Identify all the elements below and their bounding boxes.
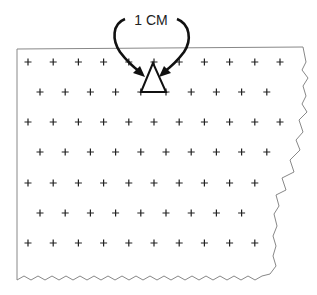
- plus-mark: [151, 119, 158, 126]
- plus-mark: [213, 89, 220, 96]
- plus-mark: [188, 210, 195, 217]
- plus-mark: [176, 180, 183, 187]
- plus-mark: [151, 240, 158, 247]
- plus-mark: [87, 149, 94, 156]
- plus-mark: [188, 89, 195, 96]
- plus-mark: [188, 149, 195, 156]
- plus-mark: [226, 119, 233, 126]
- plus-mark: [238, 149, 245, 156]
- plus-mark: [112, 89, 119, 96]
- plus-mark: [137, 149, 144, 156]
- plus-mark: [62, 210, 69, 217]
- plus-mark: [238, 89, 245, 96]
- plus-mark: [176, 119, 183, 126]
- plus-mark: [137, 210, 144, 217]
- spacing-diagram: 1 CM: [0, 0, 317, 295]
- plus-mark: [50, 119, 57, 126]
- plus-mark: [50, 59, 57, 66]
- plus-mark: [37, 149, 44, 156]
- plus-mark: [25, 59, 32, 66]
- plus-mark: [277, 119, 284, 126]
- plus-mark: [87, 210, 94, 217]
- plus-mark: [201, 119, 208, 126]
- plus-mark: [125, 180, 132, 187]
- plus-mark: [100, 240, 107, 247]
- plus-mark: [37, 89, 44, 96]
- plus-mark: [37, 210, 44, 217]
- plus-mark: [25, 180, 32, 187]
- plus-mark: [75, 180, 82, 187]
- plus-mark: [100, 180, 107, 187]
- plus-mark: [226, 59, 233, 66]
- sheet-torn-right-edge: [270, 47, 308, 274]
- plus-mark: [62, 149, 69, 156]
- plus-mark: [75, 240, 82, 247]
- plus-mark: [238, 210, 245, 217]
- plus-mark: [201, 240, 208, 247]
- plus-mark: [50, 180, 57, 187]
- plus-mark: [163, 210, 170, 217]
- plus-mark: [151, 180, 158, 187]
- plus-mark: [263, 89, 270, 96]
- plus-mark: [100, 59, 107, 66]
- plus-mark: [213, 149, 220, 156]
- scale-label: 1 CM: [134, 12, 167, 28]
- sheet-torn-bottom-edge: [17, 274, 270, 280]
- plus-mark: [112, 210, 119, 217]
- plus-mark: [163, 149, 170, 156]
- plus-mark: [75, 59, 82, 66]
- plus-mark: [251, 180, 258, 187]
- plus-mark: [50, 240, 57, 247]
- spacing-triangle: [141, 63, 166, 92]
- plus-mark: [25, 240, 32, 247]
- plus-mark: [87, 89, 94, 96]
- plus-mark: [75, 119, 82, 126]
- sheet-top-left-edge: [17, 47, 303, 280]
- plus-mark: [125, 119, 132, 126]
- plus-mark: [263, 149, 270, 156]
- plus-mark: [201, 59, 208, 66]
- plus-mark: [112, 149, 119, 156]
- plus-mark: [176, 240, 183, 247]
- plus-mark: [25, 119, 32, 126]
- plus-mark: [251, 119, 258, 126]
- plus-mark: [277, 59, 284, 66]
- plus-grid: [25, 59, 284, 247]
- plus-mark: [251, 240, 258, 247]
- diagram-canvas: 1 CM: [0, 0, 317, 295]
- plus-mark: [125, 240, 132, 247]
- plus-mark: [213, 210, 220, 217]
- plus-mark: [226, 240, 233, 247]
- plus-mark: [226, 180, 233, 187]
- plus-mark: [201, 180, 208, 187]
- plus-mark: [62, 89, 69, 96]
- plus-mark: [100, 119, 107, 126]
- plus-mark: [251, 59, 258, 66]
